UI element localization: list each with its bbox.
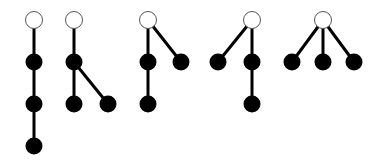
- root-node: [140, 12, 157, 29]
- root-node: [244, 12, 261, 29]
- tree-4: [210, 12, 261, 113]
- tree-node: [140, 54, 157, 71]
- tree-node: [100, 96, 117, 113]
- tree-node: [244, 54, 261, 71]
- tree-node: [346, 54, 363, 71]
- tree-node: [26, 54, 43, 71]
- tree-node: [66, 96, 83, 113]
- tree-node: [140, 96, 157, 113]
- tree-node: [315, 54, 332, 71]
- tree-1: [26, 12, 43, 155]
- tree-node: [244, 96, 261, 113]
- rooted-trees-diagram: [0, 0, 379, 161]
- tree-node: [173, 54, 190, 71]
- tree-3: [140, 12, 190, 113]
- tree-node: [26, 138, 43, 155]
- tree-node: [284, 54, 301, 71]
- tree-2: [66, 12, 117, 113]
- tree-node: [26, 96, 43, 113]
- tree-node: [210, 54, 227, 71]
- root-node: [66, 12, 83, 29]
- tree-node: [66, 54, 83, 71]
- root-node: [315, 12, 332, 29]
- tree-5: [284, 12, 363, 71]
- root-node: [26, 12, 43, 29]
